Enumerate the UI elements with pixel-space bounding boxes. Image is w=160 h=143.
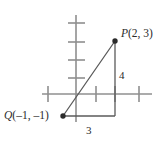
horizontal-leg-length-label: 3 bbox=[86, 125, 92, 136]
vertical-leg-length-label: 4 bbox=[119, 70, 125, 81]
point-q-dot bbox=[60, 113, 65, 118]
point-p-coords: (2, 3) bbox=[128, 27, 153, 39]
point-p-name: P bbox=[121, 27, 128, 39]
figure-canvas bbox=[0, 0, 160, 143]
coordinate-plane-figure: P(2, 3) Q(–1, –1) 4 3 bbox=[0, 0, 160, 143]
point-q-label: Q(–1, –1) bbox=[4, 110, 49, 122]
point-p-label: P(2, 3) bbox=[121, 28, 153, 40]
point-p-dot bbox=[112, 38, 117, 43]
point-q-coords: (–1, –1) bbox=[12, 109, 48, 121]
